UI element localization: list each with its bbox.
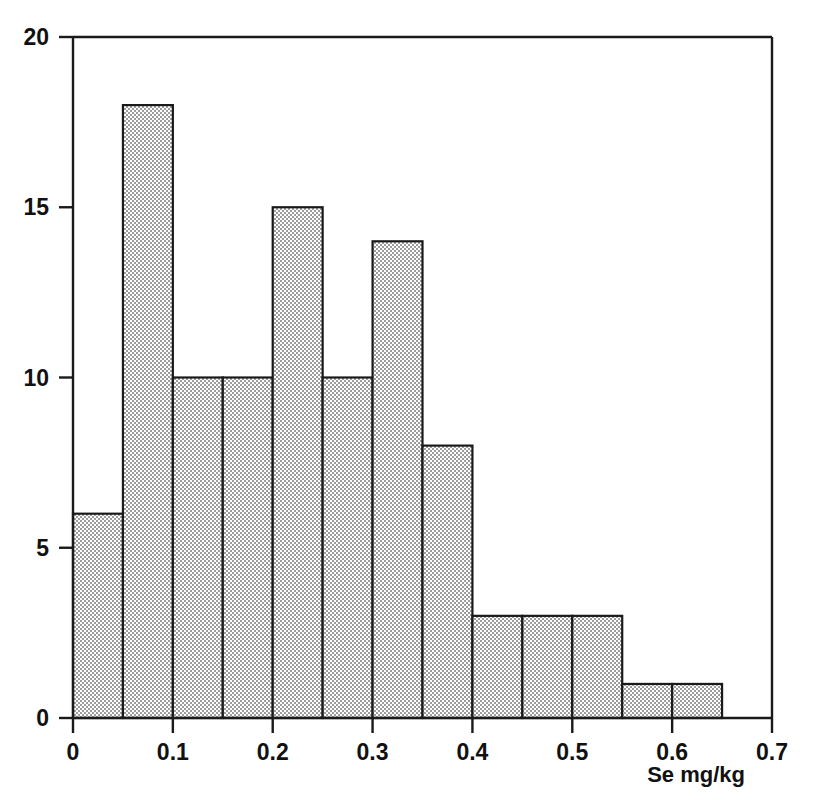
histogram-bar — [472, 616, 522, 718]
histogram-bar — [373, 241, 423, 718]
x-tick-label: 0.1 — [157, 739, 189, 765]
x-tick-group: 00.10.20.30.40.50.60.7 — [67, 718, 788, 765]
x-tick-label: 0.7 — [756, 739, 788, 765]
histogram-bar — [572, 616, 622, 718]
histogram-bar — [123, 105, 173, 718]
histogram-bar — [522, 616, 572, 718]
y-tick-label: 0 — [36, 705, 49, 731]
y-tick-label: 20 — [23, 24, 49, 50]
x-tick-label: 0.2 — [257, 739, 289, 765]
y-tick-group: 05101520 — [23, 24, 73, 731]
histogram-bar — [173, 378, 223, 719]
histogram-bar — [273, 207, 323, 718]
histogram-bar — [423, 446, 473, 718]
plot-canvas: 05101520 00.10.20.30.40.50.60.7 Se mg/kg — [0, 0, 824, 812]
x-tick-label: 0.4 — [456, 739, 488, 765]
x-tick-label: 0.5 — [556, 739, 588, 765]
histogram-bar — [672, 684, 722, 718]
x-tick-label: 0 — [67, 739, 80, 765]
y-tick-label: 15 — [23, 194, 49, 220]
histogram-bar — [622, 684, 672, 718]
bars-group — [73, 105, 722, 718]
y-tick-label: 5 — [36, 535, 49, 561]
histogram-bar — [223, 378, 273, 719]
y-tick-label: 10 — [23, 365, 49, 391]
x-tick-label: 0.3 — [357, 739, 389, 765]
histogram-bar — [73, 514, 123, 718]
x-axis-title: Se mg/kg — [647, 762, 745, 787]
histogram-figure: 05101520 00.10.20.30.40.50.60.7 Se mg/kg — [0, 0, 824, 812]
histogram-bar — [323, 378, 373, 719]
